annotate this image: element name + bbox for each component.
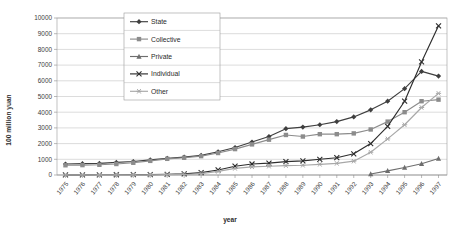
chart-figure: 0100020003000400050006000700080009000100…: [0, 0, 455, 235]
y-axis-tick-labels: 0100020003000400050006000700080009000100…: [34, 14, 52, 178]
line-chart: 0100020003000400050006000700080009000100…: [0, 0, 455, 235]
y-axis-title: 100 million yuan: [5, 94, 13, 145]
legend-label: Collective: [151, 36, 181, 43]
series-collective: [63, 97, 440, 167]
x-tick-label: 1984: [208, 180, 223, 196]
x-tick-label: 1991: [326, 180, 341, 196]
series-state: [63, 69, 441, 167]
x-tick-label: 1997: [428, 180, 443, 196]
x-axis-tick-labels: 1975197619771978197919801981198219831984…: [55, 180, 443, 196]
y-tick-label: 0: [48, 171, 52, 178]
series-individual: [63, 23, 441, 177]
x-tick-label: 1993: [360, 180, 375, 196]
y-tick-label: 7000: [38, 61, 53, 68]
x-tick-label: 1990: [309, 180, 324, 196]
legend-label: Other: [151, 88, 169, 95]
x-tick-label: 1980: [140, 180, 155, 196]
y-tick-label: 2000: [38, 140, 53, 147]
x-tick-label: 1985: [225, 180, 240, 196]
gridlines: [54, 18, 447, 175]
legend-label: Individual: [151, 70, 180, 77]
x-tick-label: 1988: [275, 180, 290, 196]
y-tick-label: 1000: [38, 156, 53, 163]
chart-legend: StateCollectivePrivateIndividualOther: [124, 13, 220, 100]
x-tick-label: 1975: [55, 180, 70, 196]
x-tick-label: 1983: [191, 180, 206, 196]
x-tick-label: 1989: [292, 180, 307, 196]
x-axis-tick-marks: [65, 175, 438, 178]
x-tick-label: 1996: [411, 180, 426, 196]
x-tick-label: 1981: [157, 180, 172, 196]
x-tick-label: 1982: [174, 180, 189, 196]
y-tick-label: 3000: [38, 124, 53, 131]
y-tick-label: 5000: [38, 93, 53, 100]
legend-label: Private: [151, 53, 172, 60]
x-tick-label: 1977: [89, 180, 104, 196]
x-tick-label: 1986: [241, 180, 256, 196]
y-tick-label: 6000: [38, 77, 53, 84]
x-tick-label: 1992: [343, 180, 358, 196]
x-tick-label: 1995: [394, 180, 409, 196]
x-tick-label: 1994: [377, 180, 392, 196]
x-tick-label: 1987: [258, 180, 273, 196]
y-tick-label: 4000: [38, 109, 53, 116]
legend-label: State: [151, 18, 167, 25]
y-tick-label: 9000: [38, 30, 53, 37]
x-tick-label: 1978: [106, 180, 121, 196]
data-series-group: [63, 23, 441, 177]
x-tick-label: 1979: [123, 180, 138, 196]
x-axis-title: year: [223, 216, 237, 224]
y-tick-label: 10000: [34, 14, 52, 21]
series-private: [368, 156, 441, 177]
x-tick-label: 1976: [72, 180, 87, 196]
y-tick-label: 8000: [38, 46, 53, 53]
